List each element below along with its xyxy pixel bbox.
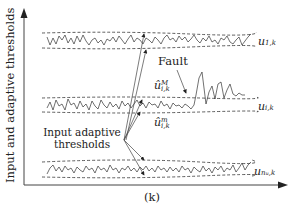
upper-threshold-ui bbox=[42, 97, 258, 99]
lower-threshold-unu bbox=[42, 175, 256, 178]
y-axis-label: Input and adaptive thresholds bbox=[3, 8, 17, 183]
signal-label-unu: unu,k bbox=[254, 166, 275, 177]
diagram-canvas bbox=[0, 0, 292, 209]
signal-label-ui-sub: i,k bbox=[265, 104, 274, 112]
fault-arrow bbox=[177, 70, 186, 93]
lower-threshold-base: û bbox=[154, 116, 161, 129]
band-u1 bbox=[42, 32, 256, 49]
fault-label: Fault bbox=[158, 56, 188, 68]
band-unu bbox=[42, 160, 256, 178]
upper-threshold-sub: i,k bbox=[161, 86, 170, 92]
threshold-callout-arrows bbox=[124, 34, 146, 175]
upper-threshold-u1 bbox=[42, 32, 256, 35]
x-axis-arrow-icon bbox=[278, 182, 288, 189]
threshold-callout-line1: Input adaptive bbox=[42, 127, 122, 138]
signal-label-unu-subtail: ,k bbox=[269, 169, 275, 177]
signal-label-u1: u1,k bbox=[258, 36, 276, 47]
band-ui bbox=[42, 72, 258, 113]
threshold-callout-line2: thresholds bbox=[42, 139, 122, 150]
lower-threshold-sub: i,k bbox=[161, 123, 170, 129]
x-axis-label: (k) bbox=[144, 192, 160, 204]
y-axis-arrow-icon bbox=[21, 8, 28, 18]
signal-ui bbox=[47, 72, 245, 110]
lower-threshold-label: ûmi,k bbox=[154, 117, 170, 130]
lower-threshold-ui bbox=[42, 111, 258, 113]
lower-threshold-u1 bbox=[42, 46, 256, 49]
signal-label-u1-sub: 1,k bbox=[265, 39, 276, 47]
signal-u1 bbox=[47, 34, 251, 45]
upper-threshold-label: ûMi,k bbox=[154, 80, 170, 93]
upper-threshold-unu bbox=[42, 160, 256, 164]
signal-label-ui: ui,k bbox=[258, 101, 274, 112]
signal-unu bbox=[47, 162, 251, 174]
